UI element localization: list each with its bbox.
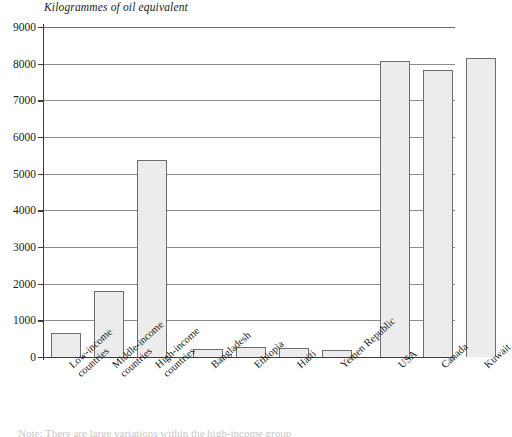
y-tick-label: 2000 <box>13 278 36 290</box>
y-tick-label: 5000 <box>13 168 36 180</box>
gridline-9000: 9000 <box>43 27 455 28</box>
y-tick-mark <box>38 247 44 248</box>
y-tick-label: 1000 <box>13 314 36 326</box>
cut-caption: Note: There are large variations within … <box>18 427 458 437</box>
y-tick-label: 0 <box>30 351 36 363</box>
bar-canada[interactable] <box>423 70 453 357</box>
plot-area: 9000800070006000500040003000200010000 <box>43 27 455 357</box>
y-tick-mark <box>38 357 44 358</box>
y-tick-mark <box>38 27 44 28</box>
y-tick-mark <box>38 210 44 211</box>
y-tick-label: 7000 <box>13 94 36 106</box>
bar-usa[interactable] <box>380 61 410 357</box>
y-tick-label: 4000 <box>13 204 36 216</box>
y-tick-label: 8000 <box>13 58 36 70</box>
y-tick-mark <box>38 64 44 65</box>
chart-title: Kilogrammes of oil equivalent <box>44 1 188 13</box>
bar-kuwait[interactable] <box>466 58 496 357</box>
y-tick-mark <box>38 320 44 321</box>
y-tick-label: 3000 <box>13 241 36 253</box>
y-tick-mark <box>38 284 44 285</box>
y-tick-mark <box>38 100 44 101</box>
y-tick-mark <box>38 137 44 138</box>
y-tick-label: 9000 <box>13 21 36 33</box>
y-tick-mark <box>38 174 44 175</box>
y-tick-label: 6000 <box>13 131 36 143</box>
